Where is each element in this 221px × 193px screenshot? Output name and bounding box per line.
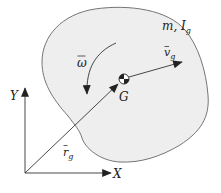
- center-of-mass-label: G: [119, 90, 129, 104]
- x-axis-label: X: [112, 167, 122, 181]
- angular-velocity-label: ω: [77, 56, 87, 70]
- mass-inertia-label: m, Ig: [162, 19, 191, 35]
- center-of-mass-icon: [119, 74, 129, 84]
- position-label: rg: [63, 146, 73, 161]
- rigid-body-diagram: m, Ig vg ω G rg Y X: [0, 0, 221, 193]
- y-axis-label: Y: [10, 89, 19, 103]
